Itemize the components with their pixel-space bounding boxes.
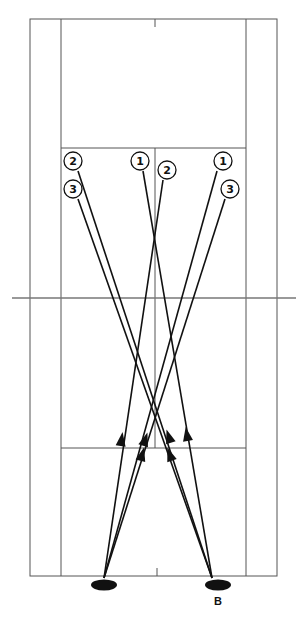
shot-left-to-right-1 [104,171,217,578]
shot-right-to-left-2 [78,171,212,578]
svg-text:3: 3 [69,183,77,196]
target-left-3: 3 [64,180,82,198]
left-player-marker [91,580,117,591]
players: B [91,580,231,608]
target-mid-2: 2 [158,161,176,179]
svg-text:1: 1 [136,155,144,168]
shot-left-to-right-3 [104,199,225,578]
svg-text:2: 2 [163,164,171,177]
court-diagram: 2 3 1 2 1 3 B [0,0,296,620]
right-player-marker [205,580,231,591]
shot-right-to-left-3 [78,199,212,578]
svg-text:2: 2 [69,155,77,168]
arrowheads [116,426,193,462]
target-positions: 2 3 1 2 1 3 [64,152,239,198]
court-lines [12,19,296,576]
svg-text:3: 3 [226,183,234,196]
target-right-3: 3 [221,180,239,198]
target-mid-1: 1 [131,152,149,170]
target-right-1: 1 [214,152,232,170]
shot-paths [78,171,225,578]
player-label-b: B [214,595,222,607]
target-left-2: 2 [64,152,82,170]
svg-text:1: 1 [219,155,227,168]
shot-right-to-mid-1 [143,171,212,578]
